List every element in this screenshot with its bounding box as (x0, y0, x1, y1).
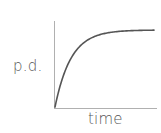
pd-curve (55, 30, 154, 107)
x-axis-label: time (88, 110, 123, 128)
y-axis-label: p.d. (13, 57, 42, 75)
